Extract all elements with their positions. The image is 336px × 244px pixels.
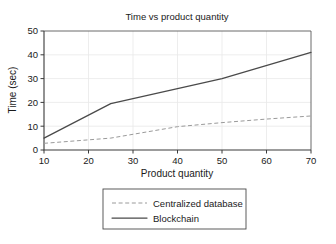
x-axis-title: Product quantity — [141, 168, 213, 179]
chart-title: Time vs product quantity — [125, 11, 228, 22]
y-axis-title: Time (sec) — [7, 67, 18, 114]
line-chart: 10203040506070 01020304050 Time vs produ… — [0, 0, 336, 244]
y-tick-label: 20 — [27, 97, 38, 108]
legend-label-centralized-database: Centralized database — [153, 198, 243, 209]
chart-figure: 10203040506070 01020304050 Time vs produ… — [0, 0, 336, 244]
y-tick-label: 40 — [27, 49, 38, 60]
x-tick-label: 20 — [83, 155, 94, 166]
y-tick-label: 0 — [33, 144, 38, 155]
x-tick-label: 40 — [172, 155, 183, 166]
x-tick-label: 10 — [39, 155, 50, 166]
x-tick-label: 30 — [128, 155, 139, 166]
y-tick-label: 30 — [27, 73, 38, 84]
x-tick-label: 70 — [306, 155, 317, 166]
x-tick-label: 50 — [217, 155, 228, 166]
x-tick-labels: 10203040506070 — [39, 155, 317, 166]
x-tick-label: 60 — [261, 155, 272, 166]
y-tick-label: 10 — [27, 121, 38, 132]
y-tick-label: 50 — [27, 25, 38, 36]
legend-label-blockchain: Blockchain — [153, 213, 199, 224]
legend: Centralized database Blockchain — [103, 189, 246, 229]
y-tick-labels: 01020304050 — [27, 25, 38, 155]
